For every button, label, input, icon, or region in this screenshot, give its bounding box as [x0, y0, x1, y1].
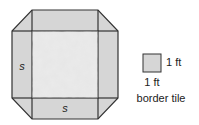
legend-tile: [143, 54, 161, 72]
border-tile-diagram: s s 1 ft 1 ft border tile: [0, 0, 199, 125]
legend-caption: border tile: [137, 92, 186, 104]
side-label-bottom: s: [62, 102, 68, 114]
inner-texture: [32, 31, 98, 98]
legend-side-right: 1 ft: [166, 56, 181, 68]
side-label-left: s: [19, 60, 25, 72]
legend-side-bottom: 1 ft: [144, 76, 159, 88]
